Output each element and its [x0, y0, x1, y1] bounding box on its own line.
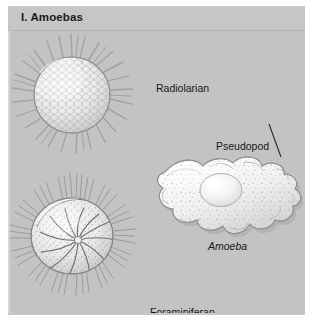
foraminiferan-organism: [10, 173, 135, 295]
figure-panel: I. Amoebas: [8, 6, 305, 315]
label-foraminiferan: Foraminiferan: [150, 307, 215, 313]
label-radiolarian: Radiolarian: [156, 83, 209, 94]
label-amoeba: Amoeba: [208, 241, 247, 252]
pseudopod-leader-line: [269, 124, 281, 157]
figure-title: I. Amoebas: [21, 11, 83, 23]
amoeba-organism: [151, 152, 303, 244]
title-band: I. Amoebas: [8, 6, 305, 31]
organism-illustrations: [10, 31, 303, 313]
label-pseudopod: Pseudopod: [216, 141, 269, 152]
amoeba-nucleus: [200, 174, 242, 207]
figure-root: I. Amoebas: [0, 0, 315, 329]
illustration-stage: Radiolarian Pseudopod Amoeba Foraminifer…: [10, 31, 303, 313]
radiolarian-organism: [12, 34, 133, 153]
